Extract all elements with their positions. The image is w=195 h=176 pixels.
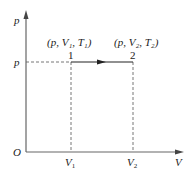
origin-label: O [13,146,21,158]
v1-tick-label: V1 [65,156,76,170]
x-axis-arrow-icon [175,150,184,155]
state-2-number: 2 [130,49,136,61]
y-axis-arrow-icon [24,10,29,19]
p-tick-label: p [13,56,20,68]
v2-tick-label: V2 [127,156,138,170]
y-axis-label: p [13,14,20,26]
x-axis-label: V [175,156,183,168]
state-2-label: (p, V₂, T₂) [114,36,159,49]
state-1-number: 1 [68,49,74,61]
pv-diagram: p V O p V1 V2 1 2 (p, V₁, T₁) (p, V₂, T₂… [0,0,195,176]
process-arrow-icon [97,60,106,65]
state-1-label: (p, V₁, T₁) [47,36,92,49]
